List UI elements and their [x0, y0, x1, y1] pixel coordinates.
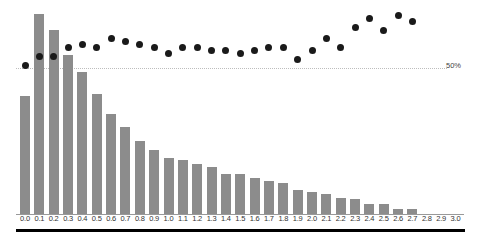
data-point [251, 47, 258, 54]
x-tick-label: 0.2 [47, 214, 61, 223]
data-point [122, 38, 129, 45]
data-point [395, 12, 402, 19]
x-tick-label: 1.7 [262, 214, 276, 223]
data-point [79, 41, 86, 48]
x-tick-label: 0.1 [32, 214, 46, 223]
data-point [50, 53, 57, 60]
bar [321, 194, 331, 214]
data-point [179, 44, 186, 51]
bar [63, 55, 73, 214]
data-point [380, 27, 387, 34]
x-tick-label: 2.4 [362, 214, 376, 223]
bar [20, 96, 30, 214]
x-tick-label: 1.5 [233, 214, 247, 223]
bar [336, 198, 346, 214]
x-tick-label: 2.0 [305, 214, 319, 223]
x-tick-label: 1.2 [190, 214, 204, 223]
x-tick-label: 1.0 [162, 214, 176, 223]
bar [164, 158, 174, 214]
x-tick-label: 1.1 [176, 214, 190, 223]
reference-line-50 [16, 68, 447, 69]
x-tick-label: 2.1 [319, 214, 333, 223]
bar [250, 178, 260, 214]
data-point [151, 44, 158, 51]
bar [350, 199, 360, 214]
bar [307, 192, 317, 214]
bar [264, 181, 274, 214]
data-point [65, 44, 72, 51]
data-point [366, 15, 373, 22]
x-tick-label: 0.6 [104, 214, 118, 223]
data-point [323, 35, 330, 42]
x-tick-label: 1.8 [276, 214, 290, 223]
bar [293, 190, 303, 214]
data-point [265, 44, 272, 51]
data-point [36, 53, 43, 60]
bar [207, 167, 217, 214]
x-tick-label: 2.7 [405, 214, 419, 223]
x-tick-label: 1.6 [248, 214, 262, 223]
x-tick-label: 0.0 [18, 214, 32, 223]
bottom-rule [16, 229, 465, 232]
data-point [208, 47, 215, 54]
x-tick-label: 1.9 [291, 214, 305, 223]
reference-line-label: 50% [446, 61, 461, 70]
x-tick-label: 2.9 [434, 214, 448, 223]
bar [235, 174, 245, 214]
data-point [409, 18, 416, 25]
x-tick-label: 0.7 [118, 214, 132, 223]
bar [192, 164, 202, 214]
bar [364, 204, 374, 214]
data-point [237, 50, 244, 57]
data-point [294, 56, 301, 63]
bar [278, 183, 288, 214]
data-point [352, 24, 359, 31]
bar [149, 150, 159, 214]
bar [106, 114, 116, 214]
x-tick-label: 0.8 [133, 214, 147, 223]
x-tick-label: 0.5 [90, 214, 104, 223]
data-point [194, 44, 201, 51]
bar [135, 141, 145, 214]
x-tick-label: 0.9 [147, 214, 161, 223]
data-point [309, 47, 316, 54]
x-tick-label: 1.3 [205, 214, 219, 223]
x-tick-label: 2.6 [391, 214, 405, 223]
x-tick-label: 2.8 [420, 214, 434, 223]
bar [178, 160, 188, 214]
data-point [93, 44, 100, 51]
x-tick-label: 2.5 [377, 214, 391, 223]
x-tick-label: 0.4 [75, 214, 89, 223]
x-tick-label: 2.2 [334, 214, 348, 223]
data-point [165, 50, 172, 57]
data-point [222, 47, 229, 54]
bar [120, 127, 130, 214]
data-point [22, 62, 29, 69]
bar [221, 174, 231, 214]
x-tick-label: 2.3 [348, 214, 362, 223]
bar [379, 204, 389, 214]
x-tick-label: 0.3 [61, 214, 75, 223]
bar [77, 72, 87, 214]
x-tick-label: 3.0 [449, 214, 463, 223]
data-point [108, 35, 115, 42]
x-tick-label: 1.4 [219, 214, 233, 223]
bar [34, 14, 44, 214]
chart-area: 50% 0.00.10.20.30.40.50.60.70.80.91.01.1… [0, 0, 481, 235]
data-point [337, 44, 344, 51]
data-point [280, 44, 287, 51]
data-point [136, 41, 143, 48]
bar [92, 94, 102, 214]
